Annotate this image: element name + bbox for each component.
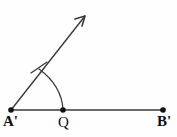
point-label-Q: Q <box>58 115 69 130</box>
point-dot-B <box>160 107 166 113</box>
geometry-figure: A' Q B' <box>0 0 177 137</box>
point-label-A: A' <box>3 114 18 129</box>
point-dot-A <box>8 107 14 113</box>
oblique-ray-with-arrow <box>11 16 85 110</box>
angle-arc <box>39 69 63 110</box>
point-dot-Q <box>60 107 66 113</box>
point-label-B: B' <box>157 114 171 129</box>
geometry-canvas <box>0 0 177 137</box>
